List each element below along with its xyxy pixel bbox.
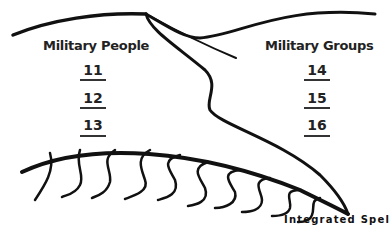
column-heading-military-groups: Military Groups <box>265 38 374 53</box>
answer-blank-16[interactable] <box>304 135 330 137</box>
tooth-4 <box>125 150 150 199</box>
lower-curve <box>22 153 348 214</box>
top-left-curve <box>13 14 146 35</box>
answer-number-14: 14 <box>304 62 330 78</box>
column-heading-military-people: Military People <box>43 38 149 53</box>
answer-number-12: 12 <box>80 90 106 106</box>
answer-number-13: 13 <box>80 117 106 133</box>
answer-blank-14[interactable] <box>304 79 330 81</box>
tooth-6 <box>188 162 208 206</box>
answer-blank-12[interactable] <box>80 107 106 109</box>
tooth-9 <box>272 190 300 216</box>
tooth-5 <box>158 155 180 200</box>
tooth-7 <box>215 170 240 208</box>
answer-blank-15[interactable] <box>304 107 330 109</box>
answer-number-16: 16 <box>304 117 330 133</box>
tooth-3 <box>92 150 115 198</box>
answer-blank-11[interactable] <box>80 79 106 81</box>
top-right-curve <box>146 12 375 38</box>
answer-number-11: 11 <box>80 62 106 78</box>
answer-number-15: 15 <box>304 90 330 106</box>
tooth-8 <box>242 178 270 212</box>
answer-blank-13[interactable] <box>80 135 106 137</box>
footer-brand-text: Integrated Spel <box>284 214 390 225</box>
